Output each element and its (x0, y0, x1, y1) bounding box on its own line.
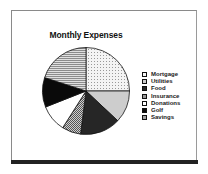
legend-item-donations: Donations (142, 100, 180, 107)
swatch-icon (142, 86, 147, 91)
legend-item-savings: Savings (142, 114, 180, 121)
legend-item-golf: Golf (142, 107, 180, 114)
swatch-icon (142, 108, 147, 113)
legend-item-mortgage: Mortgage (142, 71, 180, 78)
swatch-icon (142, 101, 147, 106)
swatch-icon (142, 94, 147, 99)
pie-slice-mortgage (86, 48, 130, 92)
swatch-icon (142, 72, 147, 77)
swatch-icon (142, 79, 147, 84)
legend-item-utilities: Utilities (142, 78, 180, 85)
swatch-icon (142, 115, 147, 120)
legend-item-food: Food (142, 85, 180, 92)
legend-item-insurance: Insurance (142, 93, 180, 100)
chart-legend: Mortgage Utilities Food Insurance Donati… (142, 71, 180, 121)
